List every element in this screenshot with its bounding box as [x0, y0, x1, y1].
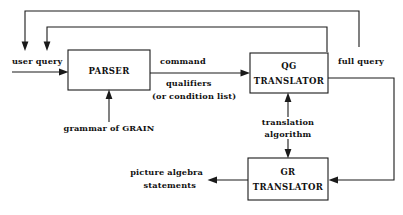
arrowhead-right-icon — [59, 68, 69, 75]
qg-translator-label-line2: TRANSLATOR — [254, 76, 325, 86]
parser-label: PARSER — [88, 66, 130, 76]
edge-user-query-input — [12, 68, 69, 75]
flow-diagram: PARSER QG TRANSLATOR — [0, 0, 403, 215]
arrowhead-left-icon — [329, 176, 339, 183]
arrowhead-right-icon — [241, 69, 251, 76]
label-picture-algebra: picture algebra — [130, 167, 203, 177]
label-statements: statements — [144, 180, 197, 190]
label-algorithm: algorithm — [265, 129, 312, 139]
label-condition-list: (or condition list) — [152, 91, 236, 101]
edge-full-query — [328, 78, 394, 184]
gr-translator-box — [248, 158, 328, 200]
arrowhead-up-icon — [106, 90, 113, 100]
edge-outer-feedback-loop — [22, 11, 359, 51]
arrowhead-up-icon — [285, 93, 292, 103]
node-gr-translator[interactable]: GR TRANSLATOR — [248, 158, 328, 200]
diagram-canvas: PARSER QG TRANSLATOR — [0, 0, 403, 215]
label-user-query: user query — [12, 56, 62, 66]
edge-inner-feedback-loop — [44, 27, 327, 52]
outer-feedback-path — [25, 11, 359, 47]
edge-parser-to-qg — [150, 69, 250, 76]
edge-translation-alg-to-gr — [285, 139, 292, 159]
edge-translation-alg-to-qg — [285, 93, 292, 118]
gr-translator-label-line2: TRANSLATOR — [253, 182, 324, 192]
label-qualifiers: qualifiers — [166, 78, 212, 88]
full-query-path — [328, 78, 394, 180]
label-grammar-of-grain: grammar of GRAIN — [64, 123, 155, 133]
label-command: command — [160, 56, 206, 66]
arrowhead-down-icon — [22, 42, 29, 52]
edge-grammar-input — [106, 90, 113, 123]
gr-translator-label-line1: GR — [280, 167, 296, 177]
inner-feedback-path — [47, 27, 327, 52]
label-full-query: full query — [338, 56, 384, 66]
arrowhead-down-icon — [285, 149, 292, 159]
arrowhead-left-icon — [208, 176, 218, 183]
label-translation: translation — [262, 117, 314, 127]
arrowhead-down-icon — [44, 42, 51, 52]
node-parser[interactable]: PARSER — [68, 50, 150, 90]
qg-translator-box — [250, 53, 328, 93]
edge-gr-output — [208, 176, 249, 183]
node-qg-translator[interactable]: QG TRANSLATOR — [250, 53, 328, 93]
qg-translator-label-line1: QG — [281, 61, 296, 71]
